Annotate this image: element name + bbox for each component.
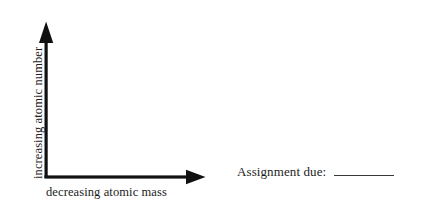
assignment-due-label: Assignment due: — [237, 163, 326, 180]
y-axis-label: increasing atomic number — [30, 19, 46, 179]
worksheet-page: increasing atomic number decreasing atom… — [0, 0, 442, 216]
x-axis-line — [45, 175, 191, 178]
axis-diagram: increasing atomic number decreasing atom… — [0, 0, 230, 216]
x-axis-arrowhead-icon — [186, 170, 206, 184]
x-axis-label: decreasing atomic mass — [46, 184, 167, 200]
assignment-due-field: Assignment due: — [237, 161, 394, 180]
assignment-due-blank[interactable] — [334, 161, 394, 176]
